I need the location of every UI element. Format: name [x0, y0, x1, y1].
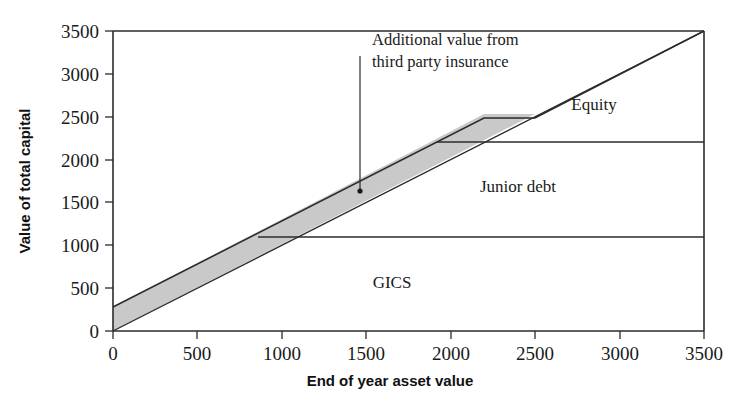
x-tick-label: 3500 [685, 343, 723, 364]
tranche-label-equity: Equity [571, 95, 617, 114]
y-tick-label: 1000 [61, 235, 99, 256]
chart-figure: 0 500 1000 1500 2000 2500 3000 3500 0 50… [0, 0, 755, 407]
y-axis-title: Value of total capital [16, 108, 33, 253]
y-tick-label: 2500 [61, 107, 99, 128]
y-tick-label: 0 [90, 321, 100, 342]
y-tick-label: 2000 [61, 150, 99, 171]
x-tick-label: 500 [183, 343, 212, 364]
x-tick-label: 0 [108, 343, 118, 364]
x-tick-label: 3000 [601, 343, 639, 364]
x-tick-label: 2500 [516, 343, 554, 364]
capital-structure-chart: 0 500 1000 1500 2000 2500 3000 3500 0 50… [0, 0, 755, 407]
y-tick-label: 1500 [61, 192, 99, 213]
y-tick-label: 3500 [61, 21, 99, 42]
y-tick-label: 3000 [61, 64, 99, 85]
tranche-label-junior-debt: Junior debt [480, 177, 556, 196]
x-axis-title: End of year asset value [307, 372, 474, 389]
x-tick-label: 1500 [347, 343, 385, 364]
insurance-callout-line1: Additional value from [372, 30, 519, 49]
tranche-label-gics: GICS [373, 273, 412, 292]
y-tick-label: 500 [71, 278, 100, 299]
insurance-callout-marker-dot [357, 188, 362, 193]
x-tick-label: 1000 [263, 343, 301, 364]
x-tick-label: 2000 [432, 343, 470, 364]
insurance-callout-line2: third party insurance [372, 52, 509, 71]
